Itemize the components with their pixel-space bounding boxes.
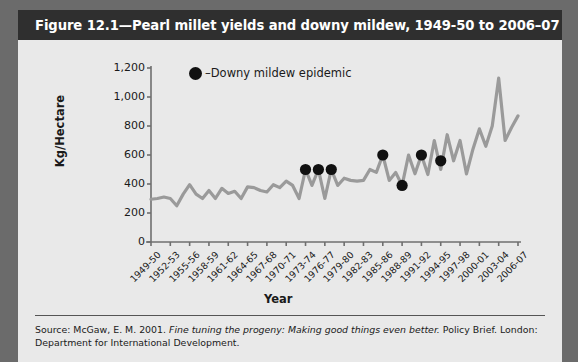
chart-svg bbox=[18, 40, 562, 308]
epidemic-marker-4 bbox=[377, 149, 388, 160]
epidemic-marker-6 bbox=[416, 149, 427, 160]
page-margin-left bbox=[0, 0, 18, 362]
epidemic-marker-7 bbox=[435, 155, 446, 166]
figure-title-bar: Figure 12.1—Pearl millet yields and down… bbox=[18, 10, 562, 40]
figure-page: Figure 12.1—Pearl millet yields and down… bbox=[0, 0, 578, 362]
source-prefix: Source: McGaw, E. M. 2001. bbox=[35, 324, 169, 335]
source-title-italic: Fine tuning the progeny: Making good thi… bbox=[169, 324, 440, 335]
epidemic-marker-5 bbox=[397, 180, 408, 191]
chart-plot-region: Kg/Hectare Year –Downy mildew epidemic 0… bbox=[18, 40, 562, 308]
source-note: Source: McGaw, E. M. 2001. Fine tuning t… bbox=[35, 324, 547, 349]
figure-card: Figure 12.1—Pearl millet yields and down… bbox=[18, 10, 562, 362]
figure-title: Figure 12.1—Pearl millet yields and down… bbox=[18, 18, 559, 33]
yield-line-series bbox=[151, 78, 518, 206]
epidemic-marker-3 bbox=[326, 164, 337, 175]
page-margin-top bbox=[0, 0, 578, 10]
page-margin-right bbox=[562, 0, 578, 362]
epidemic-marker-1 bbox=[300, 164, 311, 175]
chart-axes bbox=[146, 66, 521, 246]
epidemic-marker-2 bbox=[313, 164, 324, 175]
source-divider bbox=[35, 315, 545, 316]
